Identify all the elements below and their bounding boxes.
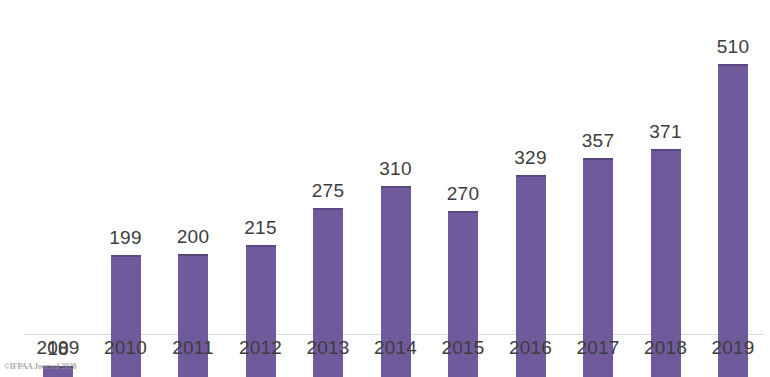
bar-group: 275: [294, 42, 362, 377]
bar-group: 199: [92, 42, 160, 377]
x-tick-label: 2010: [92, 337, 160, 359]
bar-group: 270: [429, 42, 497, 377]
bar-value-label: 329: [497, 147, 565, 169]
bar-value-label: 275: [294, 180, 362, 202]
bar-group: 310: [362, 42, 430, 377]
x-tick-label: 2012: [227, 337, 295, 359]
bar-group: 18: [24, 42, 92, 377]
x-tick-label: 2011: [159, 337, 227, 359]
bar-value-label: 270: [429, 183, 497, 205]
bar-group: 357: [564, 42, 632, 377]
x-tick-label: 2018: [632, 337, 700, 359]
bar-value-label: 510: [699, 36, 767, 58]
bar-value-label: 357: [564, 130, 632, 152]
bar-chart: 18199200215275310270329357371510 2009201…: [0, 0, 770, 377]
x-axis-tick-labels: 2009201020112012201320142015201620172018…: [0, 337, 770, 367]
bar-group: 371: [632, 42, 700, 377]
bar-value-label: 215: [227, 217, 295, 239]
bar[interactable]: [718, 64, 748, 377]
bar-value-label: 200: [159, 226, 227, 248]
bar-value-label: 310: [362, 158, 430, 180]
x-tick-label: 2014: [362, 337, 430, 359]
bar-group: 510: [699, 42, 767, 377]
x-tick-label: 2019: [699, 337, 767, 359]
bar-group: 329: [497, 42, 565, 377]
bar-group: 215: [227, 42, 295, 377]
bar-group: 200: [159, 42, 227, 377]
x-tick-label: 2015: [429, 337, 497, 359]
watermark-text: ©IFPAA Journal 2020: [4, 362, 76, 371]
x-tick-label: 2016: [497, 337, 565, 359]
x-tick-label: 2009: [24, 337, 92, 359]
bar-value-label: 371: [632, 121, 700, 143]
bar-value-label: 199: [92, 227, 160, 249]
x-tick-label: 2013: [294, 337, 362, 359]
x-tick-label: 2017: [564, 337, 632, 359]
